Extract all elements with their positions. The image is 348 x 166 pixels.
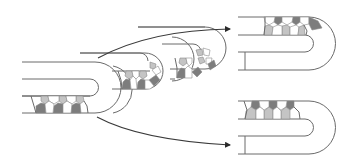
arrow-to-outcome-b — [97, 117, 230, 145]
outcome-b-tube — [238, 101, 336, 154]
folding-tube-diagram — [0, 0, 348, 166]
stage-3-cell-layer — [175, 48, 216, 78]
outcome-b-cell-layer — [244, 101, 300, 119]
stage-1-tube — [22, 62, 121, 113]
stage-2-cell-layer — [118, 62, 161, 89]
transition-arrows — [97, 27, 230, 145]
outcome-a-tube — [238, 17, 336, 70]
outcome-a-cell-layer — [264, 17, 322, 35]
stage-1-cell-layer — [31, 96, 88, 113]
diagram-canvas — [0, 0, 348, 166]
